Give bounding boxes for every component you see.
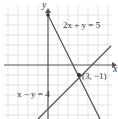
x-axis-label: x (112, 63, 118, 74)
y-axis-label: y (41, 0, 47, 10)
graph: x y 2x + y = 5 x − y = 4 (3, −1) (0, 0, 118, 119)
y-intercept-point (46, 13, 50, 17)
line-x-minus-y-eq-4 (38, 46, 111, 119)
line-label-x-minus-y: x − y = 4 (17, 89, 50, 99)
line-2x-plus-y-eq-5 (48, 15, 100, 119)
line-label-2x-plus-y: 2x + y = 5 (63, 20, 101, 30)
intersection-label: (3, −1) (82, 71, 107, 81)
intersection-point (77, 73, 81, 77)
